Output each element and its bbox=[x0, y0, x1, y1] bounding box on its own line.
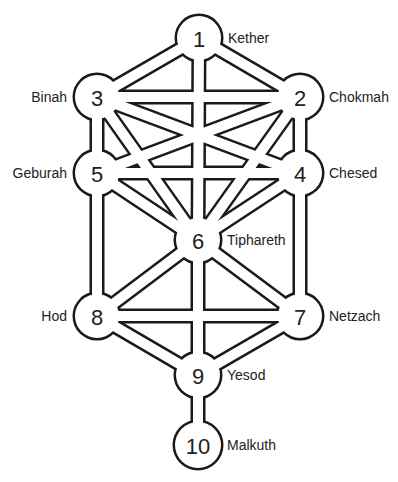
sephirah-name-hod: Hod bbox=[41, 308, 67, 324]
sephirah-number: 7 bbox=[294, 305, 306, 330]
sephirah-number: 6 bbox=[192, 229, 204, 254]
sephirah-name-chesed: Chesed bbox=[329, 165, 377, 181]
sephirah-name-binah: Binah bbox=[31, 89, 67, 105]
sephirah-number: 10 bbox=[186, 434, 210, 459]
sephirah-number: 2 bbox=[294, 86, 306, 111]
sephirah-number: 8 bbox=[91, 305, 103, 330]
sephirah-name-geburah: Geburah bbox=[13, 165, 67, 181]
sephirah-number: 5 bbox=[91, 162, 103, 187]
sephirah-name-chokmah: Chokmah bbox=[329, 89, 389, 105]
sephirah-name-netzach: Netzach bbox=[329, 308, 380, 324]
sephirah-number: 9 bbox=[192, 364, 204, 389]
sephirah-number: 4 bbox=[294, 162, 306, 187]
sephirah-name-yesod: Yesod bbox=[227, 367, 265, 383]
tree-of-life-diagram: 1Kether2Chokmah3Binah4Chesed5Geburah6Tip… bbox=[0, 0, 398, 482]
sephirah-name-tiphareth: Tiphareth bbox=[227, 232, 286, 248]
sephirah-number: 1 bbox=[193, 27, 205, 52]
sephirah-name-malkuth: Malkuth bbox=[227, 437, 276, 453]
sephirah-number: 3 bbox=[91, 86, 103, 111]
sephirah-name-kether: Kether bbox=[228, 30, 270, 46]
